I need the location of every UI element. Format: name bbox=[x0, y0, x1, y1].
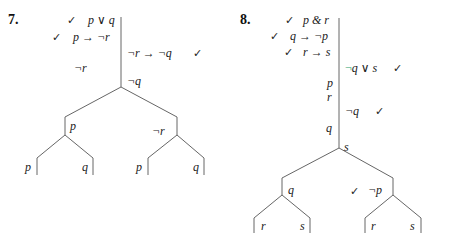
leaf-label: r bbox=[261, 220, 266, 232]
check-icon: ✓ bbox=[67, 15, 76, 26]
trunk-formula: ¬q bbox=[345, 105, 359, 117]
leaf-label: p bbox=[25, 161, 31, 173]
tree-lines bbox=[0, 0, 456, 233]
leaf-label: s bbox=[410, 220, 415, 232]
premise-formula: r → s bbox=[303, 46, 330, 58]
check-icon: ✓ bbox=[285, 15, 294, 26]
check-icon: ✓ bbox=[193, 48, 202, 59]
premise-formula: p → ¬r bbox=[73, 31, 110, 43]
trunk-formula: ¬q bbox=[127, 75, 141, 87]
branch-label: ¬p bbox=[368, 184, 382, 196]
negation-symbol: ¬ bbox=[345, 61, 352, 75]
leaf-label: q bbox=[82, 161, 88, 173]
premise-formula: p & r bbox=[303, 14, 329, 26]
tree-7-lines bbox=[37, 17, 204, 175]
leaf-label: p bbox=[136, 161, 142, 173]
apex-label: s bbox=[344, 141, 349, 153]
leaf-label: r bbox=[371, 220, 376, 232]
check-icon: ✓ bbox=[52, 32, 61, 43]
leaf-label: s bbox=[300, 220, 305, 232]
premise-formula: p ∨ q bbox=[88, 14, 115, 26]
check-icon: ✓ bbox=[270, 31, 279, 42]
branch-label: p bbox=[70, 120, 76, 132]
problem-number: 8. bbox=[240, 13, 251, 27]
check-icon: ✓ bbox=[375, 106, 384, 117]
tree-8-lines bbox=[254, 18, 421, 233]
problem-number: 7. bbox=[8, 13, 19, 27]
branch-label: q bbox=[288, 184, 294, 196]
check-icon: ✓ bbox=[350, 186, 359, 197]
leaf-label: q bbox=[193, 161, 199, 173]
trunk-formula: ¬r → ¬q bbox=[127, 47, 172, 59]
trunk-formula-disjunction: ¬q ∨ s bbox=[345, 62, 377, 74]
branch-label: ¬r bbox=[152, 125, 165, 137]
premise-formula: q → ¬p bbox=[290, 30, 328, 42]
trunk-formula: p bbox=[327, 77, 333, 89]
check-icon: ✓ bbox=[284, 47, 293, 58]
check-icon: ✓ bbox=[393, 63, 402, 74]
trunk-formula: ¬r bbox=[74, 62, 87, 74]
trunk-formula: r bbox=[327, 91, 332, 103]
trunk-formula: q bbox=[326, 122, 332, 134]
